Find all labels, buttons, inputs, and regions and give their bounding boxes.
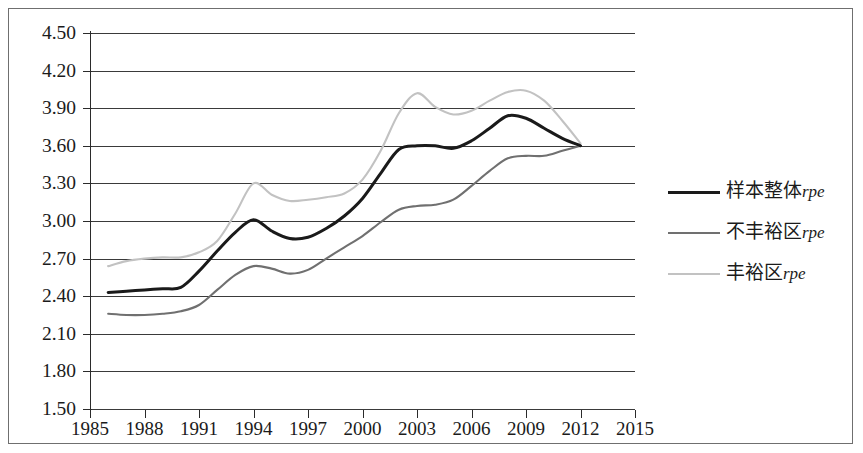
gridline <box>90 334 635 335</box>
y-axis-tick-label: 2.70 <box>14 249 76 269</box>
gridline <box>90 221 635 222</box>
legend-item: 样本整体rpe <box>668 178 858 219</box>
gridline <box>90 183 635 184</box>
legend-item-label: 样本整体rpe <box>726 178 825 205</box>
x-axis-tick <box>90 410 91 418</box>
y-axis-tick-label: 3.60 <box>14 136 76 156</box>
y-axis-tick-label: 2.10 <box>14 324 76 344</box>
legend-label-cjk: 不丰裕区 <box>726 221 802 242</box>
x-axis-tick-label: 1994 <box>224 419 284 438</box>
x-axis-tick-label: 2003 <box>387 419 447 438</box>
legend-label-cjk: 丰裕区 <box>726 262 783 283</box>
x-axis-tick-label: 1997 <box>278 419 338 438</box>
x-axis-tick-label: 2000 <box>333 419 393 438</box>
legend-label-cjk: 样本整体 <box>726 180 802 201</box>
legend-line-swatch <box>668 273 720 275</box>
x-axis-tick-label: 2015 <box>605 419 665 438</box>
x-axis-tick <box>581 410 582 418</box>
gridline <box>90 259 635 260</box>
x-axis-tick-label: 2012 <box>551 419 611 438</box>
gridline <box>90 296 635 297</box>
legend-line-swatch <box>668 191 720 194</box>
legend-item-label: 丰裕区rpe <box>726 260 806 287</box>
gridline <box>90 371 635 372</box>
y-axis-tick-label: 2.40 <box>14 286 76 306</box>
legend-label-variable: rpe <box>802 223 825 242</box>
x-axis-tick-label: 1985 <box>60 419 120 438</box>
legend-label-variable: rpe <box>783 264 806 283</box>
y-axis-tick-label: 3.90 <box>14 98 76 118</box>
x-axis-tick <box>199 410 200 418</box>
gridline <box>90 33 635 34</box>
x-axis-tick <box>472 410 473 418</box>
x-axis-tick-label: 1991 <box>169 419 229 438</box>
gridline <box>90 146 635 147</box>
legend-item: 丰裕区rpe <box>668 260 858 301</box>
y-axis-tick-label: 3.00 <box>14 211 76 231</box>
legend-label-variable: rpe <box>802 182 825 201</box>
y-axis-line <box>90 31 91 412</box>
y-axis-tick-label: 4.50 <box>14 23 76 43</box>
legend-item-label: 不丰裕区rpe <box>726 219 825 246</box>
x-axis-tick <box>417 410 418 418</box>
x-axis-tick <box>363 410 364 418</box>
y-axis-tick-label: 1.80 <box>14 361 76 381</box>
x-axis-tick-label: 2006 <box>442 419 502 438</box>
x-axis-tick <box>635 410 636 418</box>
y-axis-tick-label: 3.30 <box>14 173 76 193</box>
y-axis-tick-label: 4.20 <box>14 61 76 81</box>
x-axis-tick <box>145 410 146 418</box>
chart-legend: 样本整体rpe不丰裕区rpe丰裕区rpe <box>668 178 858 301</box>
x-axis-tick <box>254 410 255 418</box>
x-axis-tick-label: 2009 <box>496 419 556 438</box>
x-axis-tick <box>526 410 527 418</box>
legend-item: 不丰裕区rpe <box>668 219 858 260</box>
legend-line-swatch <box>668 232 720 234</box>
x-axis-tick <box>308 410 309 418</box>
y-axis-tick-label: 1.50 <box>14 399 76 419</box>
chart-figure: 4.504.203.903.603.303.002.702.402.101.80… <box>0 0 863 453</box>
gridline <box>90 71 635 72</box>
x-axis-tick-label: 1988 <box>115 419 175 438</box>
gridline <box>90 108 635 109</box>
